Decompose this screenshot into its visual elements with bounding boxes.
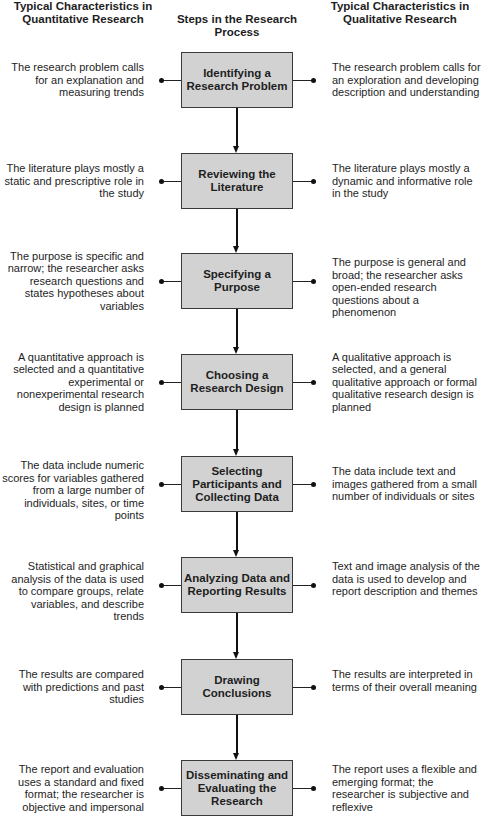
step-box: Choosing a Research Design [181, 354, 293, 410]
bullet-dot-icon [159, 786, 164, 791]
quantitative-characteristic: The research problem calls for an explan… [0, 61, 144, 99]
step-label: Selecting Participants and Collecting Da… [182, 465, 292, 504]
quantitative-characteristic: The data include numeric scores for vari… [0, 459, 144, 522]
bullet-dot-icon [311, 786, 316, 791]
quantitative-characteristic: A quantitative approach is selected and … [0, 351, 144, 414]
left-connector [162, 181, 181, 182]
step-box: Analyzing Data and Reporting Results [181, 557, 293, 613]
left-connector [162, 687, 181, 688]
right-connector [293, 382, 313, 383]
right-connector [293, 281, 313, 282]
left-connector [162, 80, 181, 81]
step-label: Identifying a Research Problem [182, 67, 292, 93]
bullet-dot-icon [311, 78, 316, 83]
bullet-dot-icon [311, 179, 316, 184]
flow-line [236, 309, 238, 348]
bullet-dot-icon [159, 685, 164, 690]
right-connector [293, 484, 313, 485]
step-label: Drawing Conclusions [182, 674, 292, 700]
flow-line [236, 209, 238, 247]
bullet-dot-icon [311, 279, 316, 284]
step-box: Drawing Conclusions [181, 659, 293, 715]
right-connector [293, 585, 313, 586]
arrow-down-icon [233, 652, 239, 659]
bullet-dot-icon [311, 482, 316, 487]
qualitative-characteristic: The report uses a flexible and emerging … [332, 763, 482, 813]
header-quantitative: Typical Characteristics in Quantitative … [8, 0, 158, 26]
step-box: Specifying a Purpose [181, 253, 293, 309]
bullet-dot-icon [159, 380, 164, 385]
left-connector [162, 281, 181, 282]
qualitative-characteristic: The literature plays mostly a dynamic an… [332, 162, 482, 200]
flow-line [236, 410, 238, 450]
bullet-dot-icon [311, 380, 316, 385]
arrow-down-icon [233, 550, 239, 557]
quantitative-characteristic: The results are compared with prediction… [0, 668, 144, 706]
right-connector [293, 181, 313, 182]
bullet-dot-icon [311, 583, 316, 588]
step-box: Reviewing the Literature [181, 153, 293, 209]
left-connector [162, 585, 181, 586]
qualitative-characteristic: The research problem calls for an explor… [332, 61, 482, 99]
step-label: Specifying a Purpose [182, 268, 292, 294]
quantitative-characteristic: The literature plays mostly a static and… [0, 162, 144, 200]
qualitative-characteristic: The data include text and images gathere… [332, 465, 482, 503]
step-label: Choosing a Research Design [182, 369, 292, 395]
bullet-dot-icon [159, 78, 164, 83]
qualitative-characteristic: The purpose is general and broad; the re… [332, 256, 482, 319]
step-box: Disseminating and Evaluating the Researc… [181, 760, 293, 816]
right-connector [293, 80, 313, 81]
step-box: Selecting Participants and Collecting Da… [181, 456, 293, 512]
left-connector [162, 484, 181, 485]
quantitative-characteristic: Statistical and graphical analysis of th… [0, 560, 144, 623]
header-steps: Steps in the Research Process [172, 13, 302, 39]
flow-line [236, 512, 238, 551]
qualitative-characteristic: Text and image analysis of the data is u… [332, 560, 482, 598]
bullet-dot-icon [311, 685, 316, 690]
arrow-down-icon [233, 347, 239, 354]
left-connector [162, 788, 181, 789]
arrow-down-icon [233, 449, 239, 456]
arrow-down-icon [233, 146, 239, 153]
flow-line [236, 715, 238, 754]
bullet-dot-icon [159, 279, 164, 284]
quantitative-characteristic: The report and evaluation uses a standar… [0, 763, 144, 813]
bullet-dot-icon [159, 482, 164, 487]
right-connector [293, 788, 313, 789]
arrow-down-icon [233, 246, 239, 253]
bullet-dot-icon [159, 583, 164, 588]
flow-line [236, 108, 238, 147]
header-qualitative: Typical Characteristics in Qualitative R… [320, 0, 480, 26]
arrow-down-icon [233, 753, 239, 760]
qualitative-characteristic: The results are interpreted in terms of … [332, 668, 482, 693]
step-label: Disseminating and Evaluating the Researc… [182, 769, 292, 808]
left-connector [162, 382, 181, 383]
quantitative-characteristic: The purpose is specific and narrow; the … [0, 250, 144, 313]
step-label: Analyzing Data and Reporting Results [182, 572, 292, 598]
flow-line [236, 613, 238, 653]
bullet-dot-icon [159, 179, 164, 184]
qualitative-characteristic: A qualitative approach is selected, and … [332, 351, 482, 414]
step-box: Identifying a Research Problem [181, 52, 293, 108]
step-label: Reviewing the Literature [182, 168, 292, 194]
right-connector [293, 687, 313, 688]
